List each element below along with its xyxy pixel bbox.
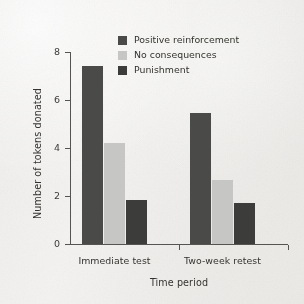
x-category-label-two-week-retest: Two-week retest	[172, 255, 273, 266]
legend-item-positive-reinforcement: Positive reinforcement	[118, 33, 239, 47]
y-tick-label-8: 8	[42, 47, 60, 57]
bar-immediate-test-punishment	[126, 200, 147, 244]
y-tick-label-4: 4	[42, 143, 60, 153]
y-axis-title: Number of tokens donated	[32, 84, 43, 224]
bar-two-week-retest-punishment	[234, 203, 255, 244]
bar-two-week-retest-no-consequences	[212, 180, 233, 244]
legend-item-no-consequences: No consequences	[118, 48, 239, 62]
y-tick-0	[65, 244, 71, 245]
x-tick-right-end	[288, 245, 289, 250]
legend-label-positive-reinforcement: Positive reinforcement	[134, 35, 239, 44]
legend-label-no-consequences: No consequences	[134, 50, 217, 59]
legend-label-punishment: Punishment	[134, 65, 189, 74]
x-tick-group-separator	[179, 245, 180, 250]
x-category-label-immediate-test: Immediate test	[64, 255, 165, 266]
y-tick-label-6: 6	[42, 95, 60, 105]
bar-two-week-retest-positive-reinforcement	[190, 113, 211, 244]
legend-item-punishment: Punishment	[118, 63, 239, 77]
y-tick-label-2: 2	[42, 191, 60, 201]
y-tick-2	[65, 196, 71, 197]
y-tick-label-0: 0	[42, 239, 60, 249]
x-axis-title: Time period	[70, 277, 288, 288]
y-axis-line	[70, 52, 71, 245]
figure-canvas: 0 2 4 6 8 Immediate test Two-week retest…	[0, 0, 304, 304]
bar-immediate-test-positive-reinforcement	[82, 66, 103, 244]
chart-legend: Positive reinforcement No consequences P…	[118, 33, 239, 78]
legend-swatch-punishment	[118, 66, 127, 75]
y-tick-8	[65, 52, 71, 53]
y-tick-6	[65, 100, 71, 101]
y-tick-4	[65, 148, 71, 149]
legend-swatch-no-consequences	[118, 51, 127, 60]
legend-swatch-positive-reinforcement	[118, 36, 127, 45]
plot-area: 0 2 4 6 8 Immediate test Two-week retest…	[0, 0, 304, 304]
bar-immediate-test-no-consequences	[104, 143, 125, 244]
